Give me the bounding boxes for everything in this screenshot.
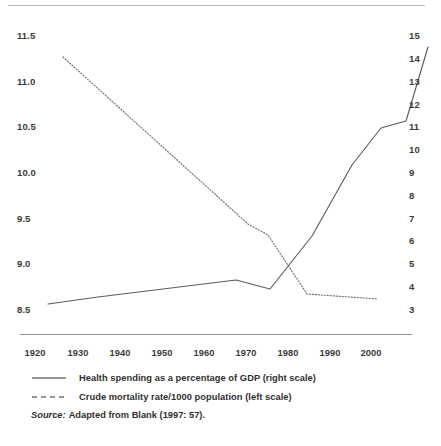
source-text: Adapted from Blank (1997: 57). — [69, 410, 205, 420]
chart-svg — [0, 0, 441, 340]
x-axis-tick-1940: 1940 — [100, 348, 140, 358]
y-axis-right-tick-13: 13 — [409, 76, 420, 87]
legend-item-crude-mortality: Crude mortality rate/1000 population (le… — [0, 387, 441, 406]
y-axis-left-tick-9-0: 9.0 — [17, 258, 31, 269]
series-health-spending-line — [48, 47, 428, 304]
y-axis-right-tick-9: 9 — [409, 167, 414, 178]
x-axis-rule — [20, 334, 412, 335]
y-axis-right-tick-12: 12 — [409, 99, 420, 110]
y-axis-left-tick-10-5: 10.5 — [17, 121, 36, 132]
x-axis-tick-2000: 2000 — [351, 348, 391, 358]
x-axis-tick-1950: 1950 — [142, 348, 182, 358]
y-axis-left-tick-11-0: 11.0 — [17, 76, 35, 87]
legend-item-health-spending: Health spending as a percentage of GDP (… — [0, 368, 441, 387]
y-axis-right-tick-7: 7 — [409, 213, 414, 224]
x-axis-tick-1960: 1960 — [184, 348, 224, 358]
y-axis-right-tick-10: 10 — [409, 144, 420, 155]
legend-label-health-spending: Health spending as a percentage of GDP (… — [79, 373, 316, 383]
y-axis-right-tick-3: 3 — [409, 304, 414, 315]
plot-area — [0, 0, 441, 340]
x-axis-tick-1930: 1930 — [58, 348, 98, 358]
x-axis-tick-1990: 1990 — [310, 348, 350, 358]
y-axis-right-tick-5: 5 — [409, 258, 414, 269]
x-axis-tick-1980: 1980 — [268, 348, 308, 358]
y-axis-left-tick-8-5: 8.5 — [17, 304, 31, 315]
source-label: Source: — [31, 410, 66, 420]
dashed-line-key-icon — [31, 391, 79, 403]
y-axis-left-tick-11-5: 11.5 — [17, 30, 35, 41]
y-axis-left-tick-9-5: 9.5 — [17, 213, 31, 224]
x-axis-tick-1970: 1970 — [226, 348, 266, 358]
chart-legend: Health spending as a percentage of GDP (… — [0, 368, 441, 406]
y-axis-right-tick-8: 8 — [409, 190, 414, 201]
legend-label-crude-mortality: Crude mortality rate/1000 population (le… — [79, 392, 292, 402]
y-axis-right-tick-14: 14 — [409, 53, 420, 64]
series-crude-mortality-line — [63, 57, 378, 299]
y-axis-left-tick-10-0: 10.0 — [17, 167, 36, 178]
y-axis-right-tick-11: 11 — [409, 121, 419, 132]
x-axis-tick-1920: 1920 — [15, 348, 55, 358]
figure-container: 11.5 11.0 10.5 10.0 9.5 9.0 8.5 15 14 13… — [0, 0, 441, 446]
y-axis-right-tick-6: 6 — [409, 235, 414, 246]
source-note: Source:Adapted from Blank (1997: 57). — [31, 410, 205, 420]
y-axis-right-tick-4: 4 — [409, 281, 414, 292]
y-axis-right-tick-15: 15 — [409, 30, 420, 41]
solid-line-key-icon — [31, 372, 79, 384]
